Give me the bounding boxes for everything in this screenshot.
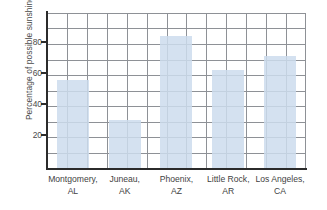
x-tick-label-ca: Los Angeles,CA (244, 174, 316, 197)
bar-ca (264, 56, 296, 168)
plot-area (47, 13, 306, 168)
x-axis-tick-labels: Montgomery,ALJuneau,AKPhoenix,AZLittle R… (36, 174, 321, 208)
gridline-vertical (206, 13, 207, 168)
bar-chart-figure: Percentage of possible sunshine 80 60 40… (0, 0, 327, 210)
x-axis-line (46, 168, 307, 170)
gridline-horizontal (47, 28, 306, 29)
bar-ak (109, 120, 141, 168)
gridline-vertical (107, 13, 108, 168)
y-axis-line (46, 11, 48, 170)
y-tick-label-20: 20 (26, 131, 42, 139)
x-tick-state: CA (244, 186, 316, 198)
bar-az (160, 36, 192, 168)
y-tick-label-60: 60 (26, 69, 42, 77)
x-tick-city: Los Angeles, (244, 174, 316, 186)
gridline-vertical (147, 13, 148, 168)
bar-al (57, 80, 89, 168)
bar-ar (212, 70, 244, 168)
gridline-horizontal (47, 13, 306, 14)
gridline-vertical (246, 13, 247, 168)
y-tick-label-80: 80 (26, 38, 42, 46)
y-tick-label-40: 40 (26, 100, 42, 108)
